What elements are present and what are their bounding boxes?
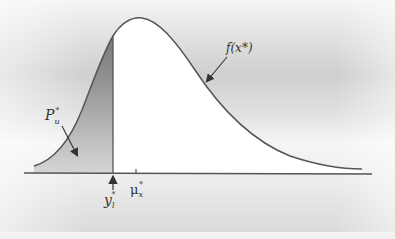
shaded-tail-area xyxy=(34,36,113,173)
curve-label: f(x*) xyxy=(225,41,253,55)
mean-label: μx* xyxy=(130,180,143,199)
shaded-area-label: Pu* xyxy=(44,106,60,126)
threshold-label: yl* xyxy=(103,190,115,210)
density-diagram: f(x*) Pu* yl* μx* xyxy=(0,0,395,232)
curve-label-pointer xyxy=(207,57,227,81)
x-axis xyxy=(24,173,372,174)
